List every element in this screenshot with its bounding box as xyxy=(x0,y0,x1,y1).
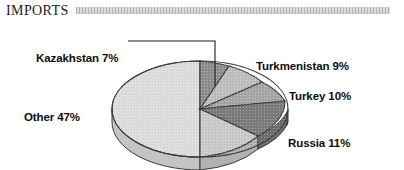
slice-label-other: Other 47% xyxy=(24,111,80,123)
horizontal-rule-icon xyxy=(76,7,390,14)
chart-area: Kazakhstan 7% Other 47% Turkmenistan 9% … xyxy=(0,20,404,170)
slice-label-kazakhstan: Kazakhstan 7% xyxy=(36,52,118,64)
slice-label-turkmenistan: Turkmenistan 9% xyxy=(256,60,349,72)
pie-top-face xyxy=(112,61,288,157)
imports-pie-chart-figure: IMPORTS xyxy=(0,0,404,170)
slice-label-russia: Russia 11% xyxy=(288,137,350,149)
slice-label-usa: USA 16% xyxy=(259,168,308,170)
slice-label-turkey: Turkey 10% xyxy=(289,90,351,102)
page-title: IMPORTS xyxy=(6,3,69,19)
